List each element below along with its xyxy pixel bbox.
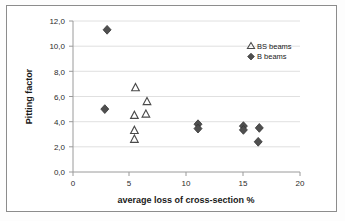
data-point — [131, 111, 139, 118]
data-point — [254, 137, 262, 146]
y-tick-labels: 12,0 10,0 8,0 6,0 4,0 2,0 0,0 — [49, 17, 65, 177]
data-point — [101, 105, 109, 114]
y-tick-label: 0,0 — [54, 168, 66, 177]
y-tick-label: 2,0 — [54, 143, 66, 152]
triangle-open-icon — [247, 43, 254, 49]
data-point — [143, 97, 151, 104]
x-tick-label: 0 — [71, 179, 76, 188]
x-tick-labels: 0 5 10 15 20 — [71, 179, 305, 188]
y-tick-label: 8,0 — [54, 68, 66, 77]
series-bs-beams — [131, 84, 151, 143]
data-point — [131, 135, 139, 142]
data-point — [255, 124, 263, 133]
data-point — [131, 126, 139, 133]
gridlines — [73, 21, 300, 147]
x-tick-label: 20 — [296, 179, 305, 188]
chart-legend: BS beams B beams — [247, 42, 291, 62]
x-tick-label: 15 — [239, 179, 248, 188]
y-tick-label: 4,0 — [54, 118, 66, 127]
x-tick-label: 5 — [127, 179, 132, 188]
y-tick-label: 6,0 — [54, 93, 66, 102]
legend-label: BS beams — [257, 42, 292, 51]
legend-entry-b-beams: B beams — [248, 52, 287, 61]
data-point — [132, 84, 140, 91]
diamond-filled-icon — [248, 53, 255, 60]
y-tick-label: 10,0 — [49, 42, 65, 51]
x-axis-title: average loss of cross-section % — [117, 195, 254, 205]
series-b-beams — [101, 25, 263, 146]
scatter-chart-figure: 12,0 10,0 8,0 6,0 4,0 2,0 0,0 0 5 10 15 … — [0, 0, 345, 221]
chart-canvas: 12,0 10,0 8,0 6,0 4,0 2,0 0,0 0 5 10 15 … — [0, 0, 345, 221]
y-axis-title: Pitting factor — [24, 68, 34, 124]
x-tick-label: 10 — [182, 179, 191, 188]
y-tick-label: 12,0 — [49, 17, 65, 26]
data-point — [103, 25, 111, 34]
legend-label: B beams — [257, 52, 287, 61]
data-point — [142, 110, 150, 117]
